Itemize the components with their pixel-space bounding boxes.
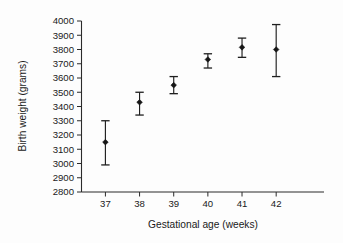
chart-plot-area: 2800290030003100320033003400350036003700… <box>0 0 343 243</box>
x-axis-ticks: 373839404142 <box>100 192 281 209</box>
y-tick-label: 3300 <box>53 115 74 126</box>
data-point-group <box>272 25 280 77</box>
x-tick-label: 42 <box>271 198 282 209</box>
y-tick-label: 3600 <box>53 72 74 83</box>
y-tick-label: 4000 <box>53 15 74 26</box>
data-point-group <box>101 121 109 165</box>
x-axis-title: Gestational age (weeks) <box>148 219 258 230</box>
data-series-birth-weight <box>101 25 280 165</box>
data-point-marker <box>137 99 143 105</box>
y-tick-label: 3000 <box>53 158 74 169</box>
x-tick-label: 41 <box>237 198 248 209</box>
data-point-group <box>238 38 246 57</box>
data-point-marker <box>273 47 279 53</box>
data-point-marker <box>205 57 211 63</box>
y-tick-label: 3400 <box>53 101 74 112</box>
x-tick-label: 39 <box>168 198 179 209</box>
chart-figure: 2800290030003100320033003400350036003700… <box>0 0 343 243</box>
y-tick-label: 2800 <box>53 186 74 197</box>
y-tick-label: 3200 <box>53 129 74 140</box>
x-tick-label: 37 <box>100 198 111 209</box>
y-tick-label: 3100 <box>53 144 74 155</box>
y-tick-label: 3900 <box>53 30 74 41</box>
y-tick-label: 2900 <box>53 172 74 183</box>
data-point-group <box>204 54 212 68</box>
x-tick-label: 38 <box>134 198 145 209</box>
y-axis-ticks: 2800290030003100320033003400350036003700… <box>53 15 82 197</box>
y-tick-label: 3500 <box>53 87 74 98</box>
data-point-marker <box>239 45 245 51</box>
data-point-marker <box>171 82 177 88</box>
data-point-group <box>135 92 143 115</box>
data-point-group <box>170 77 178 94</box>
x-tick-label: 40 <box>203 198 214 209</box>
data-point-marker <box>103 139 109 145</box>
y-tick-label: 3700 <box>53 58 74 69</box>
y-tick-label: 3800 <box>53 44 74 55</box>
y-axis-title: Birth weight (grams) <box>17 60 28 151</box>
